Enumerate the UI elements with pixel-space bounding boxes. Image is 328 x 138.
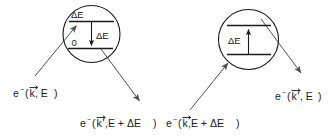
incoming-electron-arrow-right [190,63,228,110]
outgoing-electron-label-left: e − ( k ' ,E + ΔE ) [80,116,157,129]
outgoing-electron-label-right: e − ( k ' , E ) [275,89,322,102]
incoming-electron-label-right: e − ( k ,E + ΔE ) [166,116,240,129]
outgoing-electron-charge-left: − [87,116,91,123]
outgoing-electron-paren-open-left: ( [92,117,96,129]
outgoing-electron-arrow-left [101,49,140,101]
incoming-electron-paren-close-left: ) [54,87,58,99]
outgoing-electron-charge-right: − [282,89,286,96]
figure-container: ΔE 0 ΔE e − ( k , E ) e − ( k [0,0,328,138]
incoming-electron-label-left: e − ( k , E ) [13,86,58,99]
transition-label-left: ΔE [96,30,109,41]
outgoing-electron-paren-close-left: ) [153,117,157,129]
level-label-lower-left: 0 [72,37,77,48]
outgoing-electron-symbol-left: e [80,117,86,129]
incoming-electron-arrow-left [35,26,77,77]
incoming-electron-symbol-left: e [13,87,19,99]
incoming-electron-charge-left: − [20,86,24,93]
transition-label-right: ΔE [228,35,241,46]
level-label-upper-left: ΔE [71,9,84,20]
incoming-electron-energy-left: , E [35,87,48,99]
incoming-electron-charge-right: − [173,116,177,123]
process-left-group: ΔE 0 ΔE e − ( k , E ) e − ( k [13,6,157,130]
incoming-electron-paren-close-right: ) [236,117,240,129]
outgoing-electron-paren-close-right: ) [318,90,322,102]
outgoing-electron-arrow-right [261,19,301,73]
outgoing-electron-paren-open-right: ( [287,90,291,102]
outgoing-electron-energy-right: , E [300,90,313,102]
scattering-diagram: ΔE 0 ΔE e − ( k , E ) e − ( k [0,0,328,138]
outgoing-electron-energy-left: ,E + ΔE [105,117,141,129]
incoming-electron-symbol-right: e [166,117,172,129]
process-right-group: ΔE e − ( k ,E + ΔE ) e − ( k ' , E ) [166,10,322,130]
incoming-electron-energy-right: ,E + ΔE [188,117,224,129]
incoming-electron-paren-open-right: ( [178,117,182,129]
incoming-electron-paren-open-left: ( [25,87,29,99]
outgoing-electron-symbol-right: e [275,90,281,102]
